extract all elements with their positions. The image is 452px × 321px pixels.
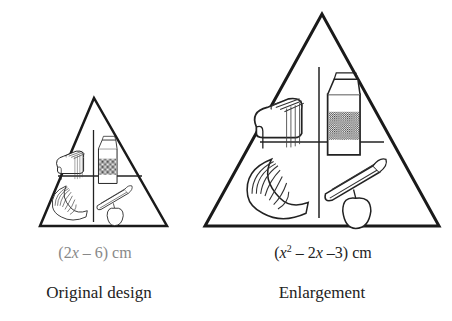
dim-rest: –3) cm [323,244,372,261]
original-dimension-label: (2x – 6) cm [42,244,148,262]
dim-rest: – 6) cm [79,244,132,261]
dim-variable: x [280,244,287,261]
dim-variable: x [72,244,79,261]
enlargement-caption: Enlargement [262,283,382,303]
dim-variable: x [316,244,323,261]
enlargement-triangle [205,14,439,228]
dim-mid: – 2 [292,244,316,261]
original-design-triangle [40,98,167,226]
enlargement-dimension-label: (x2 – 2x –3) cm [250,244,396,262]
diagram-canvas [0,0,452,321]
dim-exponent: 2 [287,243,292,254]
dim-open: (2 [58,244,71,261]
original-caption: Original design [28,283,170,303]
